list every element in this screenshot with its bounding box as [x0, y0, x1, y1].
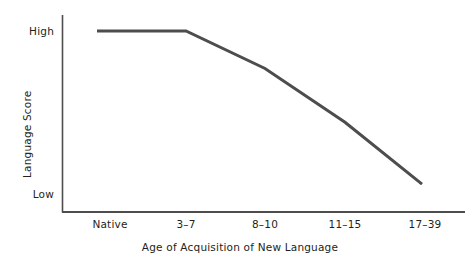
x-axis-title: Age of Acquisition of New Language — [110, 242, 370, 253]
x-tick-label-3-7: 3–7 — [146, 219, 226, 230]
x-tick-label-17-39: 17–39 — [385, 219, 465, 230]
y-tick-label-high: High — [10, 26, 54, 37]
data-line-language-score — [97, 31, 422, 184]
y-tick-label-low: Low — [10, 189, 54, 200]
x-tick-label-8-10: 8–10 — [225, 219, 305, 230]
y-axis-title: Language Score — [22, 91, 33, 178]
x-tick-label-11-15: 11–15 — [305, 219, 385, 230]
chart-figure: High Low Language Score Native 3–7 8–10 … — [0, 0, 472, 266]
x-tick-label-native: Native — [70, 219, 150, 230]
